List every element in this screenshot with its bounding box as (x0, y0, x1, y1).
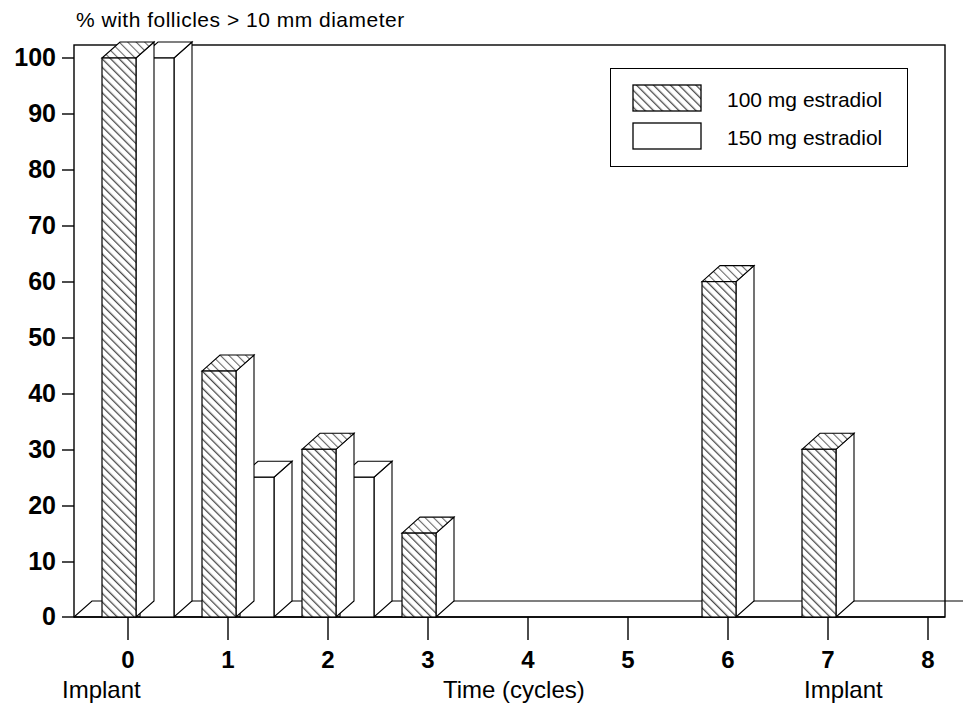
bar-100mg-cycle-7 (802, 433, 854, 617)
xtick-label-7: 7 (798, 648, 858, 672)
ytick-label-10: 10 (0, 549, 56, 574)
implant-label-right: Implant (804, 678, 883, 702)
x-axis-ticks (128, 617, 928, 640)
x-axis-title: Time (cycles) (443, 678, 585, 702)
xtick-label-1: 1 (198, 648, 258, 672)
xtick-label-0: 0 (98, 648, 158, 672)
ytick-label-70: 70 (0, 213, 56, 238)
ytick-label-90: 90 (0, 101, 56, 126)
legend-label-100mg: 100 mg estradiol (727, 89, 882, 110)
bar-chart: % with follicles > 10 mm diameter (0, 0, 964, 712)
xtick-label-3: 3 (398, 648, 458, 672)
ytick-label-80: 80 (0, 157, 56, 182)
bar-100mg-cycle-0 (102, 42, 154, 617)
xtick-label-6: 6 (698, 648, 758, 672)
ytick-label-60: 60 (0, 269, 56, 294)
white-swatch (633, 123, 701, 149)
implant-label-left: Implant (62, 678, 141, 702)
ytick-label-30: 30 (0, 437, 56, 462)
bar-100mg-cycle-3 (402, 517, 454, 617)
hatched-swatch (633, 85, 701, 111)
bar-100mg-cycle-1 (202, 355, 254, 617)
xtick-label-8: 8 (898, 648, 958, 672)
ytick-label-40: 40 (0, 381, 56, 406)
ytick-label-0: 0 (0, 604, 56, 629)
ytick-label-50: 50 (0, 325, 56, 350)
bar-100mg-cycle-6 (702, 266, 754, 617)
xtick-label-5: 5 (598, 648, 658, 672)
ytick-label-20: 20 (0, 493, 56, 518)
legend-label-150mg: 150 mg estradiol (727, 127, 882, 148)
bar-100mg-cycle-2 (302, 433, 354, 617)
xtick-label-4: 4 (498, 648, 558, 672)
legend: 100 mg estradiol 150 mg estradiol (610, 68, 908, 167)
y-axis-ticks (62, 58, 74, 617)
xtick-label-2: 2 (298, 648, 358, 672)
ytick-label-100: 100 (0, 45, 56, 70)
